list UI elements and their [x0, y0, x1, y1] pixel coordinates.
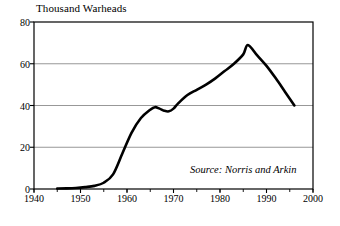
warheads-line-chart: Thousand Warheads 020406080 194019501960…	[0, 0, 340, 226]
x-tick-label-2000: 2000	[303, 193, 323, 204]
x-tick-label-1960: 1960	[117, 193, 137, 204]
x-tick-label-1940: 1940	[24, 193, 44, 204]
x-tick-label-1980: 1980	[210, 193, 230, 204]
y-tick-label-20: 20	[20, 142, 30, 153]
source-annotation: Source: Norris and Arkin	[190, 164, 296, 175]
y-tick-label-40: 40	[20, 100, 30, 111]
x-tick-label-1970: 1970	[164, 193, 184, 204]
x-tick-label-1950: 1950	[71, 193, 91, 204]
gridlines-group	[34, 64, 313, 148]
y-tick-label-80: 80	[20, 17, 30, 28]
y-tick-label-60: 60	[20, 58, 30, 69]
x-tick-label-1990: 1990	[257, 193, 277, 204]
